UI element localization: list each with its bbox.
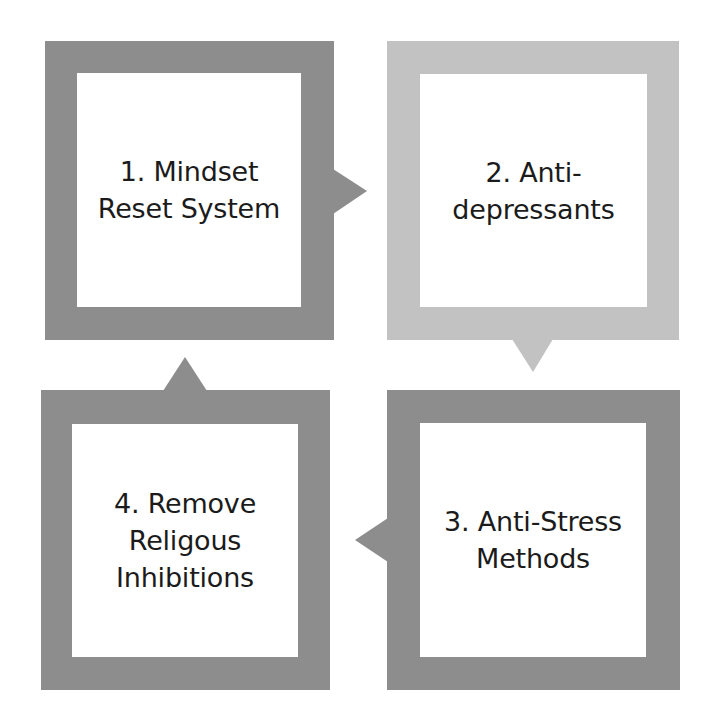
step-2-box: 2. Anti- depressants bbox=[420, 74, 647, 307]
step-1-box: 1. Mindset Reset System bbox=[77, 73, 301, 307]
step-1-label: 1. Mindset Reset System bbox=[98, 153, 280, 227]
arrow-right-icon bbox=[333, 169, 367, 214]
step-2-label: 2. Anti- depressants bbox=[452, 154, 614, 228]
arrow-left-icon bbox=[355, 518, 388, 562]
arrow-up-icon bbox=[163, 357, 207, 391]
step-4-label: 4. Remove Religous Inhibitions bbox=[114, 485, 256, 596]
step-3-label: 3. Anti-Stress Methods bbox=[444, 503, 622, 577]
step-4-box: 4. Remove Religous Inhibitions bbox=[72, 424, 298, 657]
step-3-box: 3. Anti-Stress Methods bbox=[420, 423, 646, 657]
cycle-diagram: 1. Mindset Reset System 2. Anti- depress… bbox=[0, 0, 718, 728]
arrow-down-icon bbox=[512, 339, 553, 372]
